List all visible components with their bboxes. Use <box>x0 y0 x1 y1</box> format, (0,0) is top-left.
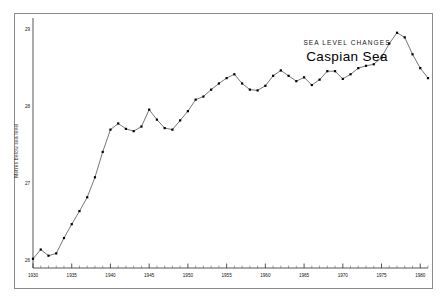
data-point-marker <box>264 85 266 87</box>
data-point-marker <box>117 122 119 124</box>
x-tick-label: 1955 <box>222 273 233 278</box>
data-point-marker <box>164 127 166 129</box>
x-tick-label: 1950 <box>183 273 194 278</box>
y-tick-label: 29 <box>25 27 31 32</box>
data-point-marker <box>249 89 251 91</box>
x-tick-label: 1935 <box>67 273 78 278</box>
data-point-marker <box>365 65 367 67</box>
y-tick-label: 28 <box>25 104 31 109</box>
chart-subtitle: SEA LEVEL CHANGES <box>272 40 422 47</box>
data-point-marker <box>257 89 259 91</box>
data-point-marker <box>357 67 359 69</box>
series-group <box>32 32 429 260</box>
data-line <box>33 33 428 259</box>
data-point-marker <box>156 119 158 121</box>
y-tick-label: 26 <box>25 258 31 263</box>
data-point-marker <box>241 82 243 84</box>
data-point-marker <box>404 36 406 38</box>
data-point-marker <box>427 77 429 79</box>
x-tick-label: 1980 <box>415 273 426 278</box>
data-point-marker <box>179 119 181 121</box>
x-tick-label: 1965 <box>299 273 310 278</box>
data-point-marker <box>311 84 313 86</box>
chart-title: Caspian Sea <box>272 50 422 64</box>
chart-annotation: SEA LEVEL CHANGES Caspian Sea <box>272 40 422 64</box>
figure-canvas: 1930193519401945195019551960196519701975… <box>0 0 447 298</box>
data-point-marker <box>47 255 49 257</box>
data-point-marker <box>218 82 220 84</box>
data-point-marker <box>94 176 96 178</box>
data-point-marker <box>280 69 282 71</box>
data-point-marker <box>133 130 135 132</box>
data-point-marker <box>171 129 173 131</box>
data-point-marker <box>287 75 289 77</box>
data-point-marker <box>109 129 111 131</box>
data-point-marker <box>40 248 42 250</box>
data-point-marker <box>295 80 297 82</box>
x-tick-label: 1975 <box>376 273 387 278</box>
data-point-marker <box>326 70 328 72</box>
data-point-marker <box>102 151 104 153</box>
data-point-marker <box>318 79 320 81</box>
data-point-marker <box>78 210 80 212</box>
data-point-marker <box>334 70 336 72</box>
data-point-marker <box>32 258 34 260</box>
data-point-marker <box>55 252 57 254</box>
data-point-marker <box>148 109 150 111</box>
data-point-marker <box>86 196 88 198</box>
data-point-marker <box>226 77 228 79</box>
x-tick-label: 1945 <box>144 273 155 278</box>
data-point-marker <box>125 128 127 130</box>
data-point-marker <box>303 76 305 78</box>
data-point-marker <box>419 67 421 69</box>
x-tick-label: 1960 <box>260 273 271 278</box>
y-tick-label: 27 <box>25 181 31 186</box>
data-point-marker <box>233 73 235 75</box>
data-point-marker <box>195 99 197 101</box>
x-tick-label: 1930 <box>28 273 39 278</box>
data-point-marker <box>349 73 351 75</box>
data-point-marker <box>202 95 204 97</box>
data-point-marker <box>187 110 189 112</box>
data-point-marker <box>210 89 212 91</box>
data-point-marker <box>342 78 344 80</box>
data-point-marker <box>63 237 65 239</box>
x-tick-label: 1970 <box>338 273 349 278</box>
data-point-marker <box>71 223 73 225</box>
data-point-marker <box>272 75 274 77</box>
data-point-marker <box>396 32 398 34</box>
data-point-marker <box>140 125 142 127</box>
x-tick-label: 1940 <box>105 273 116 278</box>
y-axis-label: Metres below sea level <box>14 101 19 201</box>
